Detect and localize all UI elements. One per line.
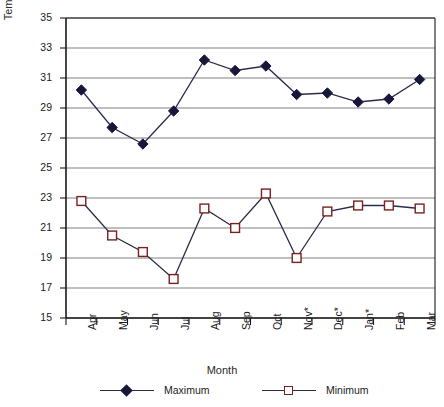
data-point-minimum-Jan [354,201,363,210]
data-point-maximum-Dec [322,88,332,98]
data-point-maximum-Feb [384,94,394,104]
data-point-minimum-Sep [231,224,240,233]
data-point-minimum-Nov [292,254,301,263]
series-line-minimum [81,194,419,280]
data-point-minimum-Apr [77,197,86,206]
legend-line-maximum [100,385,154,396]
data-series-layer [76,55,425,284]
open-square-icon [284,386,293,395]
legend-line-minimum [262,385,316,396]
data-point-minimum-Feb [384,201,393,210]
x-axis-ticks [66,318,435,325]
gridlines [66,18,435,318]
data-point-minimum-Jun [138,248,147,257]
data-point-minimum-Mar [415,204,424,213]
legend-label-maximum: Maximum [164,384,210,396]
data-point-minimum-Aug [200,204,209,213]
data-point-maximum-Sep [230,65,240,75]
data-point-minimum-May [108,231,117,240]
data-point-minimum-Oct [261,189,270,198]
temperature-line-chart: Temperature (°C) 1517192123252729313335 … [0,0,444,407]
filled-diamond-icon [120,384,133,397]
plot-area [0,0,444,407]
data-point-minimum-Jul [169,275,178,284]
series-line-maximum [81,60,419,144]
chart-legend: Maximum Minimum [0,380,444,404]
y-axis-ticks [60,18,66,318]
legend-label-minimum: Minimum [326,384,369,396]
data-point-maximum-Aug [199,55,209,65]
legend-item-maximum: Maximum [100,384,210,396]
data-point-maximum-Jan [353,97,363,107]
data-point-maximum-Mar [414,74,424,84]
x-axis-title: Month [0,364,444,376]
legend-item-minimum: Minimum [262,384,369,396]
data-point-minimum-Dec [323,207,332,216]
